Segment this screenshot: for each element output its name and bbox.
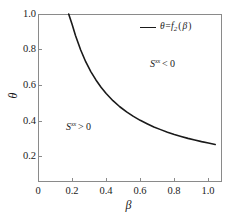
chart-figure: 1.0 0.8 0.6 0.4 0.2 0 0.2 0.4 0.6 0.8 1.… bbox=[0, 0, 233, 220]
region-relation: < 0 bbox=[160, 58, 175, 69]
y-tick-label: 0.4 bbox=[6, 116, 36, 126]
legend: θ=f2(β) bbox=[140, 21, 192, 33]
region-label-positive: Sxx> 0 bbox=[66, 121, 91, 132]
x-tick-label: 1.0 bbox=[193, 185, 223, 196]
y-tick-mark bbox=[38, 156, 42, 157]
x-tick-label: 0.2 bbox=[57, 185, 87, 196]
y-tick-mark bbox=[38, 49, 42, 50]
x-tick-mark bbox=[72, 178, 73, 182]
x-tick-label: 0.8 bbox=[159, 185, 189, 196]
y-tick-label: 1.0 bbox=[6, 9, 36, 19]
legend-line-swatch bbox=[140, 27, 156, 28]
legend-close-paren: ) bbox=[187, 21, 192, 31]
curve-series-f2 bbox=[38, 14, 222, 182]
y-tick-mark bbox=[38, 85, 42, 86]
legend-label: θ=f2(β) bbox=[160, 21, 192, 33]
region-relation: > 0 bbox=[76, 121, 91, 132]
x-tick-label: 0 bbox=[23, 185, 53, 196]
region-label-negative: Sxx< 0 bbox=[150, 58, 175, 69]
x-tick-mark bbox=[140, 178, 141, 182]
x-tick-mark bbox=[106, 178, 107, 182]
y-tick-label: 0.2 bbox=[6, 151, 36, 161]
x-tick-label: 0.4 bbox=[91, 185, 121, 196]
x-tick-mark bbox=[208, 178, 209, 182]
x-tick-mark bbox=[38, 178, 39, 182]
x-axis-label: β bbox=[0, 198, 233, 213]
x-tick-mark bbox=[174, 178, 175, 182]
y-tick-mark bbox=[38, 14, 42, 15]
y-tick-label: 0.8 bbox=[6, 44, 36, 54]
y-tick-mark bbox=[38, 121, 42, 122]
y-axis-label: θ bbox=[6, 81, 21, 111]
x-tick-label: 0.6 bbox=[125, 185, 155, 196]
